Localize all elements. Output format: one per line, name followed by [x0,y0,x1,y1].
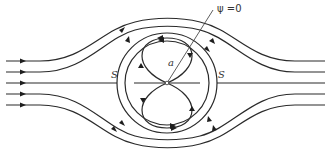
streamline-top-outer [6,18,325,61]
streamline-bottom-outer [6,105,325,148]
radius-line [167,10,213,83]
psi-label: ψ =0 [217,4,242,14]
arrow-icons [20,27,217,132]
stagnation-label-left: S [111,70,118,80]
stagnation-label-right: S [218,70,225,80]
streamline-figure [0,0,331,155]
center-point [165,81,169,85]
streamline-diagram: ψ =0 a S S [0,0,331,155]
radius-label: a [168,58,174,68]
